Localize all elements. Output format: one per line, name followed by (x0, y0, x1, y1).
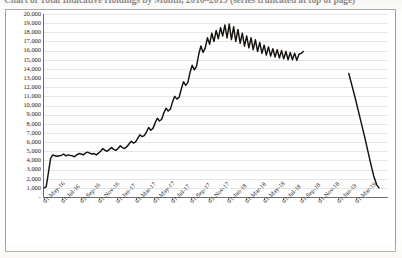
y-axis-tick-label: 19,000 (23, 20, 41, 26)
y-axis-tick-label: 18,000 (23, 29, 41, 35)
y-axis-tick-label: 9,000 (27, 111, 41, 117)
series-line-main (44, 24, 303, 188)
y-axis-tick-label: 16,000 (23, 47, 41, 53)
series-group (43, 14, 388, 198)
y-axis-tick-label: 17,000 (23, 38, 41, 44)
y-axis-tick-label: 10,000 (23, 102, 41, 108)
y-axis-tick-label: 5,000 (27, 148, 41, 154)
chart-title: Chart of Total Indicative Holdings by Mo… (4, 0, 396, 6)
y-axis-tick-label: 14,000 (23, 66, 41, 72)
series-line-tail (349, 73, 379, 187)
y-axis-tick-label: 2,000 (27, 176, 41, 182)
y-axis-tick-label: 12,000 (23, 84, 41, 90)
y-axis-tick-label: 1,000 (27, 185, 41, 191)
y-axis-tick-label: 3,000 (27, 166, 41, 172)
y-axis-tick-label: 6,000 (27, 139, 41, 145)
y-axis-tick-label: 4,000 (27, 157, 41, 163)
y-axis-tick-label: 11,000 (24, 93, 41, 99)
y-axis-tick-label: 15,000 (23, 57, 41, 63)
y-axis-tick-label: 8,000 (27, 121, 41, 127)
y-axis-tick-label: 20,000 (23, 11, 41, 17)
y-axis-tick-label: 13,000 (23, 75, 41, 81)
y-axis-tick-label: 7,000 (27, 130, 41, 136)
chart-figure: Chart of Total Indicative Holdings by Mo… (0, 0, 402, 258)
y-axis-tick-labels: 20,00019,00018,00017,00016,00015,00014,0… (5, 0, 41, 258)
